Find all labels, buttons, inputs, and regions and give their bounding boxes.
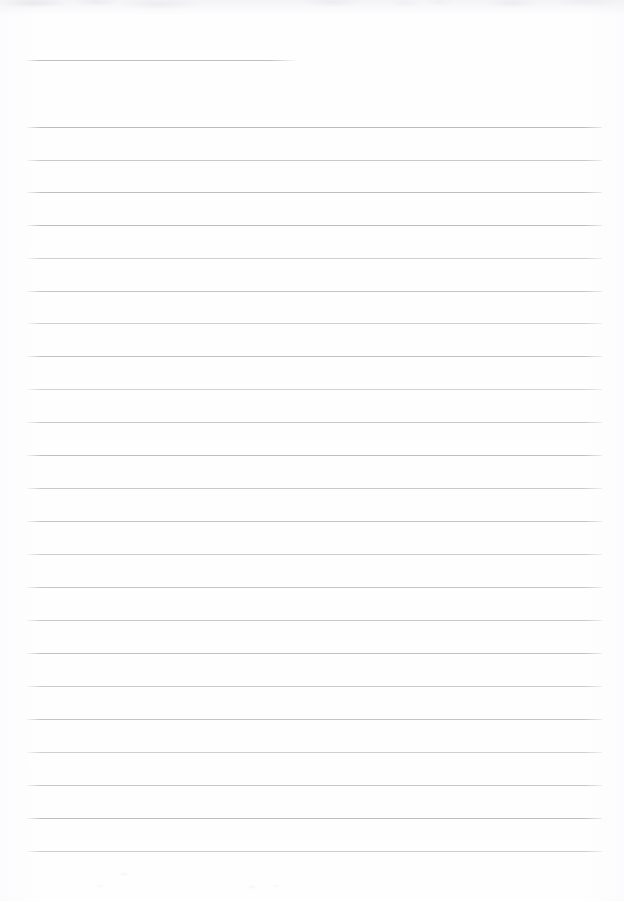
ruled-line-1 xyxy=(27,127,602,128)
ruled-line-11 xyxy=(27,455,602,456)
scanned-page xyxy=(0,0,624,901)
ruled-line-12 xyxy=(27,488,602,489)
ruled-line-23 xyxy=(27,851,602,852)
ruled-line-15 xyxy=(27,587,602,588)
scan-noise-bottom xyxy=(0,866,624,894)
ruled-line-13 xyxy=(27,521,602,522)
ruled-line-21 xyxy=(27,785,602,786)
scan-noise-top xyxy=(0,0,624,14)
ruled-line-18 xyxy=(27,686,602,687)
ruled-line-20 xyxy=(27,752,602,753)
ruled-line-6 xyxy=(27,291,602,292)
ruled-line-9 xyxy=(27,389,602,390)
ruled-line-3 xyxy=(27,192,602,193)
ruled-line-8 xyxy=(27,356,602,357)
ruled-line-16 xyxy=(27,620,602,621)
paper-tone-overlay xyxy=(0,0,624,901)
ruled-line-2 xyxy=(27,160,602,161)
ruled-line-4 xyxy=(27,225,602,226)
ruled-line-19 xyxy=(27,719,602,720)
ruled-line-22 xyxy=(27,818,602,819)
ruled-line-17 xyxy=(27,653,602,654)
ruled-line-5 xyxy=(27,258,602,259)
ruled-line-10 xyxy=(27,422,602,423)
short-header-rule xyxy=(27,60,296,61)
ruled-line-14 xyxy=(27,554,602,555)
ruled-line-7 xyxy=(27,323,602,324)
